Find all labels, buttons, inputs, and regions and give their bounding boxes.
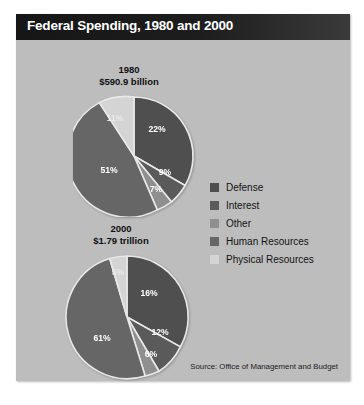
pie-2000-label-physical-resources: 5% bbox=[112, 267, 125, 277]
pie-2000-year: 2000 bbox=[56, 223, 186, 235]
pie-2000-label-other: 6% bbox=[145, 349, 158, 359]
pie-1980-label-other: 7% bbox=[150, 184, 163, 194]
legend-label-human-resources: Human Resources bbox=[226, 236, 309, 247]
pie-2000-label-human-resources: 61% bbox=[93, 333, 111, 343]
legend-swatch-interest bbox=[210, 201, 219, 210]
pie-1980-svg: 22% 9% 7% 51% 11% bbox=[73, 95, 195, 217]
legend-label-interest: Interest bbox=[226, 200, 259, 211]
chart-figure: Federal Spending, 1980 and 2000 1980 $59… bbox=[16, 14, 350, 381]
pie-chart-2000: 16% 12% 6% 61% 5% bbox=[64, 254, 190, 380]
chart-panel: 1980 $590.9 billion 22% 9% 7% 51% 11% 2 bbox=[16, 40, 350, 381]
pie-2000-slices bbox=[66, 256, 188, 379]
legend-swatch-human-resources bbox=[210, 237, 219, 246]
legend-item-other: Other bbox=[210, 214, 314, 232]
legend-item-human-resources: Human Resources bbox=[210, 232, 314, 250]
pie-1980-slices bbox=[73, 96, 193, 217]
chart-legend: Defense Interest Other Human Resources P… bbox=[210, 178, 314, 268]
legend-label-other: Other bbox=[226, 218, 251, 229]
pie-chart-1980: 22% 9% 7% 51% 11% bbox=[73, 95, 195, 217]
legend-item-defense: Defense bbox=[210, 178, 314, 196]
legend-swatch-defense bbox=[210, 183, 219, 192]
page-title: Federal Spending, 1980 and 2000 bbox=[27, 18, 233, 33]
pie-2000-total: $1.79 trillion bbox=[56, 235, 186, 247]
pie-2000-svg: 16% 12% 6% 61% 5% bbox=[64, 254, 190, 380]
pie-1980-label-human-resources: 51% bbox=[100, 165, 118, 175]
pie-2000-label-defense: 16% bbox=[140, 288, 158, 298]
pie-caption-1980: 1980 $590.9 billion bbox=[64, 64, 194, 87]
pie-caption-2000: 2000 $1.79 trillion bbox=[56, 223, 186, 246]
pie-1980-total: $590.9 billion bbox=[64, 76, 194, 88]
legend-label-defense: Defense bbox=[226, 182, 263, 193]
legend-item-physical-resources: Physical Resources bbox=[210, 250, 314, 268]
pie-2000-label-interest: 12% bbox=[151, 327, 169, 337]
legend-swatch-other bbox=[210, 219, 219, 228]
pie-1980-label-defense: 22% bbox=[148, 124, 166, 134]
legend-swatch-physical-resources bbox=[210, 255, 219, 264]
pie-1980-year: 1980 bbox=[64, 64, 194, 76]
legend-label-physical-resources: Physical Resources bbox=[226, 254, 314, 265]
legend-item-interest: Interest bbox=[210, 196, 314, 214]
chart-title-bar: Federal Spending, 1980 and 2000 bbox=[16, 14, 350, 40]
pie-1980-label-physical-resources: 11% bbox=[107, 113, 124, 123]
pie-1980-label-interest: 9% bbox=[159, 167, 172, 177]
chart-source-note: Source: Office of Management and Budget bbox=[190, 362, 338, 371]
